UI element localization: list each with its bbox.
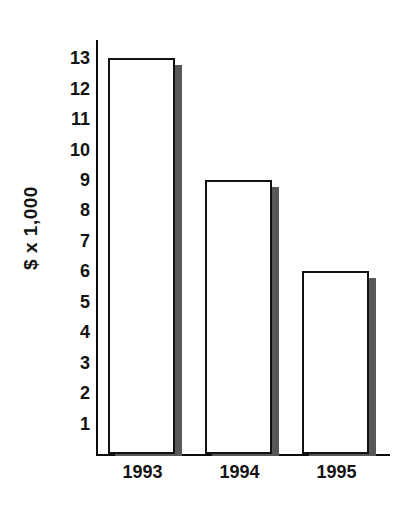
y-axis-tick-label: 9	[56, 171, 90, 189]
y-axis-tick-label: 10	[56, 141, 90, 159]
x-axis-tick-labels: 199319941995	[96, 460, 390, 494]
y-axis-tick-label: 2	[56, 384, 90, 402]
x-axis-tick-label: 1995	[296, 460, 377, 485]
y-axis-tick-label: 3	[56, 354, 90, 372]
y-axis-tick-label: 7	[56, 232, 90, 250]
bar-body	[302, 271, 369, 454]
y-axis-tick-labels: 13121110987654321	[56, 40, 90, 455]
y-axis-tick-label: 4	[56, 323, 90, 341]
y-axis-tick-label: 5	[56, 293, 90, 311]
y-axis-tick-label: 6	[56, 262, 90, 280]
y-axis-tick-label: 12	[56, 80, 90, 98]
y-axis-title-label: $ x 1,000	[20, 186, 42, 270]
bar	[205, 180, 272, 454]
plot-area	[96, 40, 390, 456]
y-axis-tick-label: 13	[56, 49, 90, 67]
x-axis-tick-label: 1993	[102, 460, 183, 485]
bar	[302, 271, 369, 454]
bar-chart: $ x 1,000 13121110987654321 199319941995	[0, 0, 414, 515]
y-axis-title: $ x 1,000	[0, 0, 62, 455]
x-axis-tick-label: 1994	[199, 460, 280, 485]
y-axis-tick-label: 1	[56, 415, 90, 433]
bar-body	[205, 180, 272, 454]
bar-body	[108, 58, 175, 454]
y-axis-tick-label: 8	[56, 201, 90, 219]
bar	[108, 58, 175, 454]
y-axis-tick-label: 11	[56, 110, 90, 128]
